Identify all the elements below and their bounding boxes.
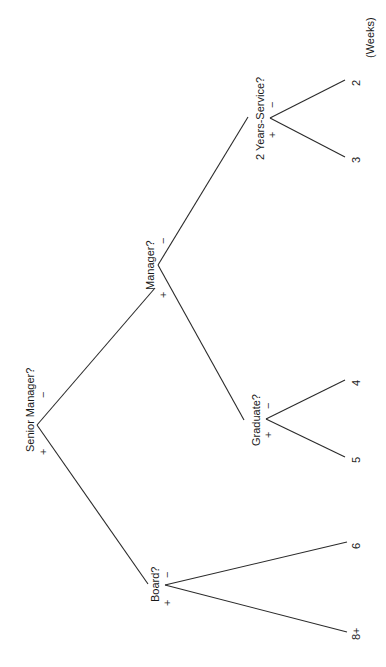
plus-sign: +	[262, 432, 274, 438]
minus-sign: −	[262, 403, 274, 409]
plus-sign: +	[266, 132, 278, 138]
edge-graduate-to-leaf-5	[266, 419, 345, 457]
edge-years-service-to-leaf-2	[270, 80, 345, 118]
edge-manager-to-graduate	[158, 265, 244, 420]
plus-sign: +	[161, 600, 173, 606]
plus-sign: +	[157, 292, 169, 298]
node-label: Graduate?	[250, 394, 262, 446]
leaf-3: 3	[350, 157, 362, 163]
node-senior-manager: Senior Manager? − +	[24, 368, 49, 455]
edge-senior-manager-to-board	[37, 425, 148, 584]
plus-sign: +	[37, 449, 49, 455]
leaf-6: 6	[350, 543, 362, 549]
decision-tree-diagram: Senior Manager? − + Manager? − + 2 Years…	[0, 0, 386, 667]
leaf-2: 2	[350, 80, 362, 86]
edge-senior-manager-to-manager	[37, 288, 155, 425]
edge-graduate-to-leaf-4	[266, 380, 345, 419]
minus-sign: −	[37, 392, 49, 398]
node-years-service: 2 Years-Service? − +	[254, 77, 278, 160]
leaf-4: 4	[350, 380, 362, 386]
minus-sign: −	[266, 102, 278, 108]
node-graduate: Graduate? − +	[250, 394, 274, 446]
edge-manager-to-years-service	[158, 117, 248, 265]
node-manager: Manager? − +	[144, 238, 169, 298]
node-label: 2 Years-Service?	[254, 77, 266, 160]
edge-years-service-to-leaf-3	[270, 118, 345, 157]
edge-board-to-leaf-8plus	[165, 585, 347, 632]
tree-edges	[37, 80, 347, 632]
minus-sign: −	[161, 572, 173, 578]
edge-board-to-leaf-6	[165, 542, 347, 585]
minus-sign: −	[157, 238, 169, 244]
node-label: Senior Manager?	[24, 368, 36, 452]
node-label: Manager?	[144, 240, 156, 290]
leaf-8-plus: 8+	[350, 627, 362, 640]
node-label: Board?	[149, 567, 161, 602]
units-label: (Weeks)	[364, 17, 376, 58]
leaf-values: 2 3 4 5 6 8+	[350, 80, 362, 640]
leaf-5: 5	[350, 457, 362, 463]
